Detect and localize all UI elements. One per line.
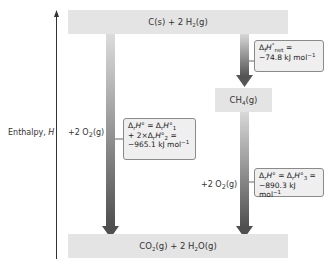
arrow-shaft [240, 34, 249, 76]
callout-line: −965.1 kJ mol−1 [128, 140, 191, 150]
arrow-shaft [240, 112, 249, 227]
arrow-shaft [106, 34, 115, 227]
callout-line: ΔrH° = ΔrH°1 [128, 121, 191, 131]
arrow-down-icon [236, 75, 253, 87]
axis-arrowhead-icon [54, 10, 59, 17]
callout-line: −74.8 kJ mol−1 [259, 53, 319, 63]
arrow-combustion-step [236, 112, 253, 238]
arrow-direct-path [102, 34, 119, 238]
callout-combustion-enthalpy: ΔrH° = ΔrH°3 = −890.3 kJ mol−1 [254, 168, 324, 197]
callout-net-enthalpy: ΔfH°net = −74.8 kJ mol−1 [254, 40, 324, 72]
enthalpy-axis [54, 10, 59, 259]
axis-label: Enthalpy, H [8, 128, 54, 137]
callout-direct-enthalpy: ΔrH° = ΔrH°1 + 2×ΔrH°2 = −965.1 kJ mol−1 [123, 118, 196, 160]
oxygen-label-right: +2 O2(g) [201, 180, 237, 189]
oxygen-label-left: +2 O2(g) [68, 128, 104, 137]
callout-line: ΔrH° = ΔrH°3 = [259, 171, 319, 181]
level-intermediate: CH4(g) [215, 88, 272, 112]
callout-line: −890.3 kJ mol−1 [259, 181, 319, 200]
level-products: CO2(g) + 2 H2O(g) [68, 234, 288, 258]
level-reactants: C(s) + 2 H2(g) [68, 10, 288, 34]
